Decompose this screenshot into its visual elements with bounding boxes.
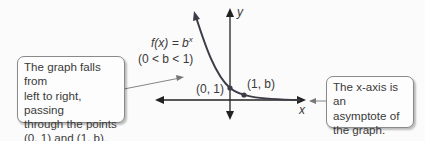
point-1-b-label: (1, b) [247, 77, 275, 91]
y-axis-label: y [237, 5, 243, 19]
y-axis-down-arrow [226, 111, 234, 120]
left-callout-line: (0, 1) and (1, b). [24, 131, 119, 141]
right-callout-line: The x-axis is an [333, 80, 408, 109]
function-text: f(x) = b [151, 36, 189, 50]
left-callout-line: The graph falls from [24, 60, 119, 89]
right-callout-line: asymptote of [333, 109, 408, 123]
left-callout-pointer-head [176, 75, 184, 81]
left-callout-pointer [124, 78, 180, 89]
right-callout: The x-axis is an asymptote of the graph. [326, 76, 414, 128]
left-callout-line: left to right, passing [24, 89, 119, 118]
curve-arrow [193, 11, 200, 21]
left-callout-line: through the points [24, 117, 119, 131]
function-label: f(x) = bx [151, 35, 193, 50]
left-callout: The graph falls from left to right, pass… [17, 56, 125, 123]
point-0-1 [227, 85, 232, 90]
right-callout-line: the graph. [333, 123, 408, 137]
right-callout-pointer-head [309, 98, 316, 104]
condition-label: (0 < b < 1) [138, 52, 193, 66]
function-exponent: x [189, 35, 193, 44]
x-axis-left-arrow [155, 96, 164, 104]
point-0-1-label: (0, 1) [196, 82, 224, 96]
y-axis-up-arrow [226, 8, 234, 17]
point-1-b [241, 92, 246, 97]
x-axis-label: x [299, 103, 305, 117]
